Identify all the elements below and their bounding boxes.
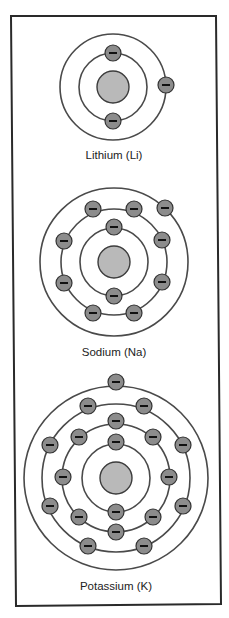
electron-icon [105,113,121,129]
lithium-nucleus [97,71,129,103]
electron-icon [71,429,87,445]
electron-icon [71,509,87,525]
electron-icon [108,413,124,429]
electron-icon [108,374,124,390]
atomic-structure-diagram: Lithium (Li) Sodium (Na) Potassium (K) [0,0,229,618]
sodium-nucleus [98,246,130,278]
potassium-nucleus [100,462,132,494]
atom-potassium: Potassium (K) [24,374,208,592]
electron-icon [126,305,142,321]
electron-icon [161,469,177,485]
electron-icon [106,219,122,235]
electron-icon [126,201,142,217]
potassium-label: Potassium (K) [80,580,152,592]
sodium-label: Sodium (Na) [82,346,147,358]
electron-icon [56,233,72,249]
electron-icon [158,77,174,93]
electron-icon [108,504,124,520]
electron-icon [106,288,122,304]
electron-icon [85,305,101,321]
electron-icon [105,45,121,61]
electron-icon [136,398,152,414]
electron-icon [108,434,124,450]
nucleus-icon [100,462,132,494]
electron-icon [42,437,58,453]
electron-icon [145,509,161,525]
electron-icon [154,232,170,248]
electron-icon [154,274,170,290]
electron-icon [157,200,173,216]
electron-icon [80,538,96,554]
electron-icon [80,398,96,414]
atom-lithium: Lithium (Li) [60,34,174,161]
electron-icon [145,429,161,445]
nucleus-icon [98,246,130,278]
electron-icon [85,201,101,217]
lithium-label: Lithium (Li) [86,149,143,161]
electron-icon [136,538,152,554]
nucleus-icon [97,71,129,103]
electron-icon [42,498,58,514]
electron-icon [108,524,124,540]
electron-icon [55,469,71,485]
electron-icon [175,437,191,453]
electron-icon [56,275,72,291]
electron-icon [175,498,191,514]
atom-sodium: Sodium (Na) [40,188,188,358]
